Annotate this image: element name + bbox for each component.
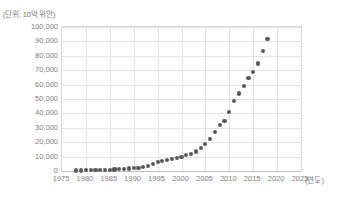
x-axis-tick-label: 2000 bbox=[172, 174, 189, 183]
data-point bbox=[208, 137, 212, 141]
y-axis-tick-label: 20,000 bbox=[6, 137, 58, 146]
gridline-vertical bbox=[205, 27, 206, 171]
data-point bbox=[98, 168, 102, 172]
y-axis-tick-label: 90,000 bbox=[6, 36, 58, 45]
data-point bbox=[170, 157, 174, 161]
data-point bbox=[74, 168, 78, 172]
data-point bbox=[151, 162, 155, 166]
data-point bbox=[242, 84, 246, 88]
gridline-vertical bbox=[134, 27, 135, 171]
y-axis-tick-label: 30,000 bbox=[6, 122, 58, 131]
y-axis-tick-label: 100,000 bbox=[6, 22, 58, 31]
y-axis-tick-label: 70,000 bbox=[6, 65, 58, 74]
plot-area bbox=[61, 26, 302, 172]
unit-label: (단위: 10억 위안) bbox=[3, 8, 55, 19]
gridline-vertical bbox=[277, 27, 278, 171]
data-point bbox=[203, 142, 207, 146]
data-point bbox=[256, 61, 260, 65]
x-axis-title: (연도) bbox=[305, 174, 324, 185]
data-point bbox=[213, 130, 217, 134]
data-point bbox=[222, 119, 226, 123]
gdp-scatter-chart: (단위: 10억 위안) 010,00020,00030,00040,00050… bbox=[0, 0, 341, 199]
data-point bbox=[112, 167, 116, 171]
x-axis-tick-label: 2015 bbox=[244, 174, 261, 183]
data-point bbox=[232, 99, 236, 103]
gridline-vertical bbox=[110, 27, 111, 171]
data-point bbox=[79, 168, 83, 172]
x-axis-tick-label: 1980 bbox=[77, 174, 94, 183]
x-axis-tick-label: 1985 bbox=[100, 174, 117, 183]
data-point bbox=[189, 152, 193, 156]
gridline-vertical bbox=[158, 27, 159, 171]
gridline-vertical bbox=[253, 27, 254, 171]
y-axis-tick-label: 0 bbox=[6, 166, 58, 175]
data-point bbox=[175, 156, 179, 160]
data-point bbox=[127, 166, 131, 170]
x-axis-tick-label: 2010 bbox=[220, 174, 237, 183]
x-axis-tick-label: 1990 bbox=[124, 174, 141, 183]
y-axis-labels: 010,00020,00030,00040,00050,00060,00070,… bbox=[3, 26, 58, 172]
data-point bbox=[194, 149, 198, 153]
x-axis-tick-label: 2005 bbox=[196, 174, 213, 183]
gridline-vertical bbox=[86, 27, 87, 171]
gridline-vertical bbox=[229, 27, 230, 171]
data-point bbox=[132, 166, 136, 170]
gridline-vertical bbox=[182, 27, 183, 171]
y-axis-tick-label: 80,000 bbox=[6, 50, 58, 59]
data-point bbox=[141, 165, 145, 169]
data-point bbox=[179, 155, 183, 159]
data-point bbox=[165, 158, 169, 162]
data-point bbox=[117, 167, 121, 171]
x-axis-labels: 1975198019851990199520002005201020152020… bbox=[61, 174, 302, 188]
data-point bbox=[146, 164, 150, 168]
x-axis-tick-label: 2020 bbox=[268, 174, 285, 183]
y-axis-tick-label: 40,000 bbox=[6, 108, 58, 117]
y-axis-tick-label: 50,000 bbox=[6, 94, 58, 103]
data-point bbox=[89, 168, 93, 172]
data-point bbox=[265, 37, 269, 41]
x-axis-tick-label: 1975 bbox=[53, 174, 70, 183]
data-point bbox=[261, 49, 265, 53]
data-point bbox=[218, 123, 222, 127]
data-point bbox=[156, 160, 160, 164]
data-point bbox=[237, 91, 241, 95]
y-axis-tick-label: 60,000 bbox=[6, 79, 58, 88]
data-point bbox=[199, 146, 203, 150]
data-point bbox=[84, 168, 88, 172]
data-point bbox=[103, 168, 107, 172]
data-point bbox=[93, 168, 97, 172]
data-point bbox=[136, 166, 140, 170]
data-point bbox=[160, 159, 164, 163]
data-point bbox=[108, 168, 112, 172]
y-axis-tick-label: 10,000 bbox=[6, 151, 58, 160]
data-point bbox=[251, 70, 255, 74]
data-point bbox=[246, 76, 250, 80]
x-axis-tick-label: 1995 bbox=[148, 174, 165, 183]
data-point bbox=[122, 167, 126, 171]
